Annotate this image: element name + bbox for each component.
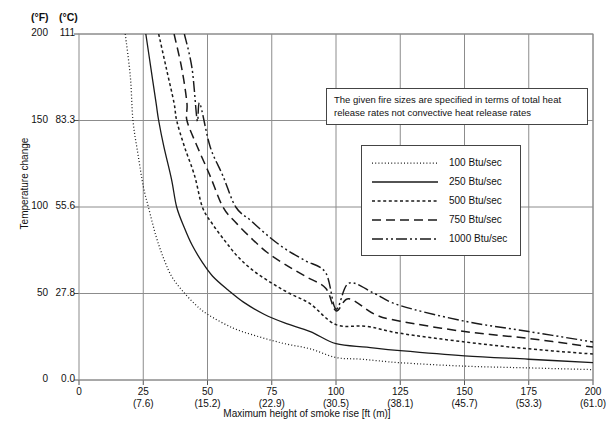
x-tick-label-m: (15.2) bbox=[186, 398, 230, 409]
legend-label: 750 Btu/sec bbox=[449, 214, 502, 225]
plot-canvas bbox=[0, 0, 613, 436]
note-box: The given fire sizes are specified in te… bbox=[326, 88, 588, 125]
legend-item: 250 Btu/sec bbox=[362, 172, 520, 191]
legend-item: 100 Btu/sec bbox=[362, 153, 520, 172]
data-series-group bbox=[125, 34, 593, 370]
y-tick-label-c: 27.8 bbox=[45, 287, 75, 298]
legend-swatch-fine-dotted bbox=[371, 157, 439, 169]
legend-swatch-solid bbox=[371, 176, 439, 188]
x-tick-label-m: (22.9) bbox=[250, 398, 294, 409]
y-tick-label-c: 111 bbox=[45, 27, 75, 38]
series-line bbox=[125, 34, 593, 370]
x-tick-label-m: (7.6) bbox=[121, 398, 165, 409]
x-tick-label-ft: 175 bbox=[507, 386, 551, 397]
legend-swatch-dotted bbox=[371, 195, 439, 207]
legend: 100 Btu/sec250 Btu/sec500 Btu/sec750 Btu… bbox=[361, 145, 521, 256]
x-tick-label-m: (38.1) bbox=[378, 398, 422, 409]
x-tick-label-ft: 75 bbox=[250, 386, 294, 397]
x-tick-label-ft: 0 bbox=[57, 386, 101, 397]
x-tick-label-ft: 150 bbox=[443, 386, 487, 397]
x-tick-label-ft: 100 bbox=[314, 386, 358, 397]
note-text: The given fire sizes are specified in te… bbox=[334, 94, 561, 118]
x-tick-label-m: (53.3) bbox=[507, 398, 551, 409]
legend-label: 500 Btu/sec bbox=[449, 195, 502, 206]
legend-swatch-long-dashed bbox=[371, 214, 439, 226]
legend-item: 1000 Btu/sec bbox=[362, 229, 520, 248]
x-tick-label-ft: 200 bbox=[571, 386, 613, 397]
x-tick-label-m: (30.5) bbox=[314, 398, 358, 409]
x-tick-label-m: (61.0) bbox=[571, 398, 613, 409]
y-tick-label-c: 55.6 bbox=[45, 200, 75, 211]
y-tick-label-c: 83.3 bbox=[45, 114, 75, 125]
x-tick-label-ft: 25 bbox=[121, 386, 165, 397]
legend-label: 1000 Btu/sec bbox=[449, 233, 507, 244]
legend-swatch-dash-dot-dot bbox=[371, 233, 439, 245]
legend-item: 750 Btu/sec bbox=[362, 210, 520, 229]
y-tick-label-c: 0.0 bbox=[45, 373, 75, 384]
smoke-rise-temperature-chart: (°F) (°C) Temperature change Maximum hei… bbox=[0, 0, 613, 436]
legend-label: 100 Btu/sec bbox=[449, 157, 502, 168]
x-tick-label-ft: 125 bbox=[378, 386, 422, 397]
legend-label: 250 Btu/sec bbox=[449, 176, 502, 187]
legend-item: 500 Btu/sec bbox=[362, 191, 520, 210]
x-tick-label-m: (45.7) bbox=[443, 398, 487, 409]
x-tick-label-ft: 50 bbox=[186, 386, 230, 397]
